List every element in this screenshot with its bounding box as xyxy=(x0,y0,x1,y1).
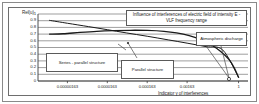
y-tick-label: 0.9 xyxy=(22,18,36,23)
x-tick-label: 0.00000163 xyxy=(47,85,87,90)
y-tick-label: 0.3 xyxy=(22,59,36,64)
y-tick-label: 0.5 xyxy=(22,45,36,50)
leader-line-parallel-2 xyxy=(118,44,126,50)
y-tick-label: 0.8 xyxy=(22,25,36,30)
leader-line-atmospheric xyxy=(221,46,229,78)
y-tick-label: 0 xyxy=(22,79,36,84)
series-parallel-structure-callout: Series - parallel structure xyxy=(46,53,118,72)
y-tick-label: 0.7 xyxy=(22,32,36,37)
y-tick-label: 0.1 xyxy=(22,72,36,77)
x-tick-label: 1 xyxy=(219,85,259,90)
leader-line-parallel xyxy=(128,43,137,58)
parallel-marker xyxy=(127,42,129,44)
x-tick-label: 0.00163 xyxy=(167,85,207,90)
y-tick-label: 0.6 xyxy=(22,39,36,44)
y-tick-label: 1 xyxy=(22,12,36,17)
parallel-structure-callout: Parallel structure xyxy=(121,60,174,79)
leader-line-atmospheric-2 xyxy=(206,46,229,78)
x-tick-label: 0.000163 xyxy=(127,85,167,90)
x-tick-label: 0.0000163 xyxy=(87,85,127,90)
y-tick-label: 0.4 xyxy=(22,52,36,57)
y-tick-label: 0.2 xyxy=(22,65,36,70)
atmospheric-discharge-callout: Atmospheric discharge xyxy=(196,32,247,46)
x-axis-title: Indicator γ of interferences xyxy=(158,91,208,96)
chart-figure: Rel(u) 10.90.80.70.60.50.40.30.20.10 0.0… xyxy=(0,0,259,104)
title-callout: Influence of interferences of electric f… xyxy=(126,10,247,26)
